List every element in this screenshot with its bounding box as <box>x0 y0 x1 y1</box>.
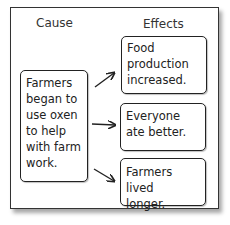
arrow-3-icon <box>94 169 114 181</box>
arrow-2-icon <box>92 124 115 125</box>
arrow-1-icon <box>95 73 114 87</box>
arrows <box>0 0 230 225</box>
